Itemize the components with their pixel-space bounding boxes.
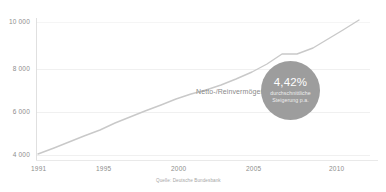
source-note: Quelle: Deutsche Bundesbank: [156, 178, 221, 183]
x-axis-tick-2005: 2005: [246, 165, 261, 172]
x-axis-tick-1991: 1991: [31, 165, 46, 172]
chart-plot-area: [0, 0, 386, 192]
y-axis-tick-8000: 8 000: [4, 65, 30, 72]
x-axis-tick-1995: 1995: [96, 165, 111, 172]
x-axis-tick-2010: 2010: [329, 165, 344, 172]
y-axis-tick-4000: 4 000: [4, 151, 30, 158]
x-axis-tick-2000: 2000: [171, 165, 186, 172]
growth-callout-line2: Steigerung p.a.: [272, 97, 309, 104]
growth-callout-value: 4,42%: [274, 77, 308, 89]
y-axis-tick-10000: 10 000: [4, 18, 30, 25]
growth-callout-line1: durchschnittliche: [270, 90, 310, 97]
y-axis-tick-6000: 6 000: [4, 108, 30, 115]
growth-callout-bubble: 4,42% durchschnittliche Steigerung p.a.: [261, 61, 320, 120]
series-inline-label: Netto-/Reinvermögen: [196, 88, 264, 95]
chart-container: 10 000 8 000 6 000 4 000 1991 1995 2000 …: [0, 0, 386, 192]
